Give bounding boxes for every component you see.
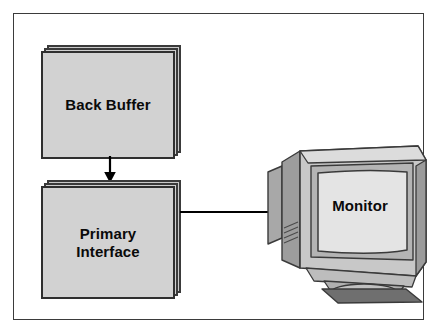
primary-interface-card-layer-front: Primary Interface — [41, 186, 175, 299]
monitor-left-side-panel — [282, 151, 300, 268]
monitor-rear-housing — [268, 166, 282, 244]
monitor-base-plate — [322, 289, 422, 303]
diagram-outer-frame: Back Buffer Primary Interface — [13, 13, 424, 320]
monitor-right-bevel — [416, 160, 426, 276]
back-buffer-card-layer-front: Back Buffer — [41, 51, 175, 159]
monitor-screen — [318, 171, 407, 254]
monitor-top-bevel — [300, 146, 426, 163]
back-buffer-label: Back Buffer — [65, 96, 150, 114]
primary-interface-label: Primary Interface — [76, 225, 139, 260]
monitor-illustration[interactable] — [266, 142, 434, 306]
node-primary-interface[interactable]: Primary Interface — [41, 180, 181, 299]
node-back-buffer[interactable]: Back Buffer — [41, 45, 181, 159]
diagram-canvas: Back Buffer Primary Interface — [0, 0, 436, 333]
